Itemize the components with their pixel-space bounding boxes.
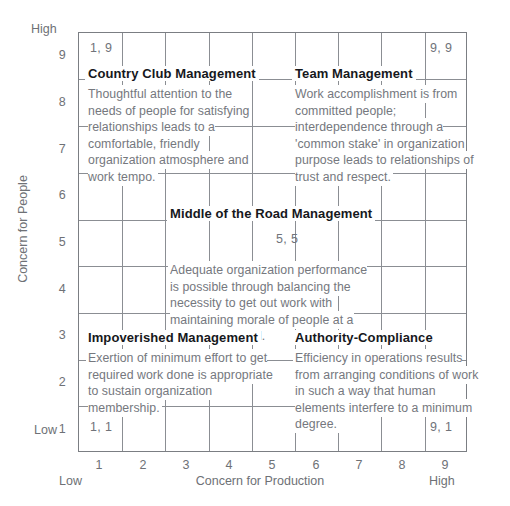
style-block-country-club: Country Club Management Thoughtful atten… bbox=[88, 64, 266, 185]
style-block-middle-of-the-road: Middle of the Road Management Adequate o… bbox=[170, 204, 378, 345]
y-tick-5: 5 bbox=[50, 235, 66, 249]
style-block-impoverished: Impoverished Management Exertion of mini… bbox=[88, 328, 274, 416]
y-tick-3: 3 bbox=[50, 328, 66, 342]
y-axis-low-label: Low bbox=[34, 423, 57, 437]
style-title-authority-compliance: Authority-Compliance bbox=[292, 330, 436, 345]
y-axis-ticks: 9 8 7 6 5 4 3 2 1 bbox=[46, 32, 66, 452]
style-block-team: Team Management Work accomplishment is f… bbox=[295, 64, 475, 185]
x-tick-1: 1 bbox=[89, 458, 109, 472]
style-title-country-club: Country Club Management bbox=[85, 66, 259, 81]
y-tick-8: 8 bbox=[50, 95, 66, 109]
y-axis-high-label: High bbox=[31, 22, 57, 36]
style-title-impoverished: Impoverished Management bbox=[85, 330, 261, 345]
style-body-team: Work accomplishment is from committed pe… bbox=[295, 86, 475, 185]
style-title-team: Team Management bbox=[292, 66, 416, 81]
x-axis-title: Concern for Production bbox=[10, 474, 510, 488]
style-body-authority-compliance: Efficiency in operations results from ar… bbox=[295, 350, 481, 433]
y-tick-9: 9 bbox=[50, 48, 66, 62]
x-tick-8: 8 bbox=[392, 458, 412, 472]
y-axis-title: Concern for People bbox=[16, 159, 30, 299]
x-tick-3: 3 bbox=[176, 458, 196, 472]
coordinate-tag-9-9: 9, 9 bbox=[430, 41, 452, 55]
y-tick-2: 2 bbox=[50, 375, 66, 389]
style-block-authority-compliance: Authority-Compliance Efficiency in opera… bbox=[295, 328, 481, 433]
style-body-country-club: Thoughtful attention to the needs of peo… bbox=[88, 86, 266, 185]
y-tick-4: 4 bbox=[50, 282, 66, 296]
x-tick-5: 5 bbox=[262, 458, 282, 472]
y-tick-7: 7 bbox=[50, 142, 66, 156]
style-body-impoverished: Exertion of minimum effort to get requir… bbox=[88, 350, 274, 416]
coordinate-tag-1-9: 1, 9 bbox=[90, 41, 112, 55]
x-tick-9: 9 bbox=[435, 458, 455, 472]
x-tick-4: 4 bbox=[219, 458, 239, 472]
style-title-middle-of-the-road: Middle of the Road Management bbox=[167, 206, 375, 221]
x-tick-2: 2 bbox=[133, 458, 153, 472]
coordinate-tag-1-1: 1, 1 bbox=[90, 420, 112, 434]
x-tick-6: 6 bbox=[306, 458, 326, 472]
y-tick-6: 6 bbox=[50, 188, 66, 202]
x-tick-7: 7 bbox=[349, 458, 369, 472]
